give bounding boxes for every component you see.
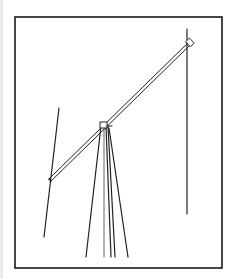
left-guy-line bbox=[44, 108, 59, 237]
boom-edge-lower bbox=[49, 42, 189, 179]
mast-head bbox=[100, 122, 107, 128]
mast-leg bbox=[86, 126, 101, 257]
frame-border bbox=[15, 17, 222, 268]
mast-drawing bbox=[0, 0, 234, 279]
boom-edge-upper bbox=[51, 44, 191, 181]
